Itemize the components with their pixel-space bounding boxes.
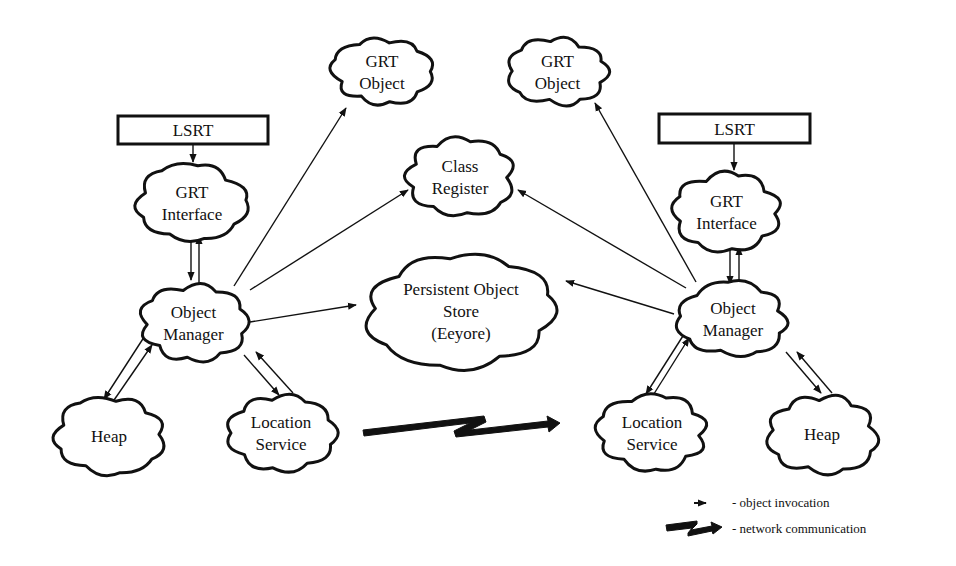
node-label: Register (432, 179, 489, 198)
lsrt-box-right: LSRT (659, 114, 810, 143)
node-label: GRT (176, 183, 210, 202)
edge-object-manager-to-location-service-left (244, 355, 279, 395)
node-label: Object (710, 299, 756, 318)
node-label: Manager (163, 325, 224, 344)
node-label: GRT (710, 192, 744, 211)
grt-object-node-left: GRTObject (330, 38, 433, 105)
node-label: Interface (162, 205, 222, 224)
lsrt-box-left: LSRT (118, 116, 268, 144)
node-label: LSRT (714, 120, 755, 139)
legend: - object invocation - network communicat… (666, 495, 867, 536)
cloud-shape (404, 137, 513, 216)
edge-object-manager-to-location-service-right (646, 328, 688, 394)
node-label: Object (535, 74, 581, 93)
node-label: Class (442, 157, 479, 176)
node-label: GRT (541, 52, 575, 71)
node-label: Heap (804, 425, 840, 444)
node-label: Location (622, 413, 683, 432)
node-label: Object (171, 303, 217, 322)
legend-network-communication-icon (666, 521, 722, 536)
location-service-node-right: LocationService (595, 394, 707, 471)
node-label: Store (443, 302, 479, 321)
node-label: Persistent Object (403, 280, 519, 299)
node-label: Service (256, 435, 307, 454)
node-label: Location (251, 413, 312, 432)
edge-object-manager-to-heap-right (786, 352, 821, 393)
architecture-diagram: LSRTGRTInterfaceObjectManagerHeapLocatio… (0, 0, 956, 566)
node-label: (Eeyore) (431, 324, 490, 343)
node-label: Interface (696, 214, 756, 233)
location-service-node-left: LocationService (228, 394, 339, 472)
node-label: Manager (703, 321, 764, 340)
cloud-shape (676, 280, 788, 356)
persistent-object-store-node: Persistent ObjectStore(Eeyore) (366, 254, 557, 370)
edge-location-service-to-object-manager-right (652, 338, 689, 397)
grt-interface-node-right: GRTInterface (672, 171, 781, 252)
cloud-shape (140, 284, 249, 362)
grt-object-node-right: GRTObject (509, 37, 610, 106)
cloud-shape (672, 171, 781, 252)
edge-object-manager-to-persistent-store-left (250, 305, 356, 322)
legend-object-invocation-label: - object invocation (732, 495, 830, 510)
heap-node-left: Heap (53, 397, 164, 475)
edge-location-service-to-object-manager-left (256, 352, 293, 393)
edge-heap-to-object-manager-right (797, 352, 832, 393)
node-label: GRT (366, 52, 400, 71)
grt-interface-node-left: GRTInterface (135, 163, 248, 241)
edge-object-manager-to-class-register-left (250, 190, 408, 290)
node-label: Service (627, 435, 678, 454)
edge-object-manager-to-persistent-store-right (566, 281, 674, 314)
cloud-shape (509, 37, 610, 106)
node-label: Object (359, 74, 405, 93)
class-register-node: ClassRegister (404, 137, 513, 216)
network-communication-arrow (363, 416, 560, 437)
node-label: Heap (91, 427, 127, 446)
object-manager-node-left: ObjectManager (140, 284, 249, 362)
cloud-shape (228, 394, 339, 472)
cloud-shape (330, 38, 433, 105)
node-label: LSRT (173, 121, 214, 140)
edge-object-manager-to-heap-left (104, 331, 148, 399)
cloud-shape (135, 163, 248, 241)
heap-node-right: Heap (767, 395, 879, 475)
cloud-shape (595, 394, 707, 471)
legend-network-communication-label: - network communication (732, 521, 867, 536)
edge-heap-to-object-manager-left (112, 345, 152, 403)
object-manager-node-right: ObjectManager (676, 280, 788, 356)
edge-object-manager-to-class-register-right (518, 190, 686, 288)
